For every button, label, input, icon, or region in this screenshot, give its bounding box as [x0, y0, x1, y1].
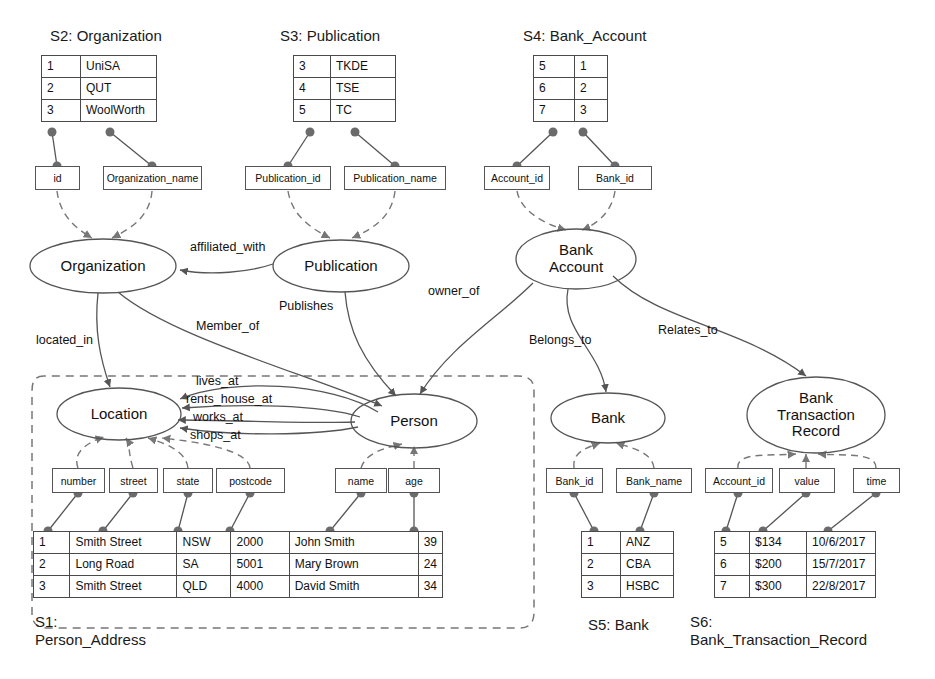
attribute-box-account-id[interactable]: Account_id	[705, 468, 773, 493]
cell: CBA	[621, 554, 674, 576]
dlink-orgname-organization	[112, 191, 152, 238]
relationship-label-works-at: works_at	[193, 410, 243, 424]
attribute-box-account-id-top[interactable]: Account_id	[484, 166, 550, 190]
table-s5-bank[interactable]: 1 ANZ 2 CBA 3 HSBC	[581, 531, 674, 598]
schema-caption-s4: S4: Bank_Account	[523, 27, 646, 44]
cell: 1	[42, 56, 81, 78]
schema-caption-s6-line1: S6:	[690, 613, 713, 630]
link-s4-col2-bankid	[583, 132, 615, 166]
table-s1-person-address[interactable]: 1 Smith Street NSW 2000 John Smith 39 2 …	[33, 531, 443, 598]
table-row: 7 3	[534, 100, 608, 122]
table-s3-body: 3 TKDE 4 TSE 5 TC	[294, 56, 396, 122]
cell: UniSA	[81, 56, 157, 78]
link-accountid-s6	[726, 493, 738, 531]
attribute-box-postcode[interactable]: postcode	[216, 468, 285, 493]
entity-bank-shape[interactable]	[551, 393, 665, 443]
attribute-box-time[interactable]: time	[853, 468, 900, 493]
entity-label-organization: Organization	[30, 252, 176, 280]
entity-label-person: Person	[351, 407, 477, 435]
attribute-box-name[interactable]: name	[335, 468, 387, 493]
cell: 5	[715, 532, 750, 554]
relationship-label-located-in: located_in	[36, 333, 93, 347]
dlink-pubname-publication	[352, 191, 395, 238]
cell: 2	[575, 78, 608, 100]
attribute-box-publication-name[interactable]: Publication_name	[344, 166, 446, 190]
entity-label-bank-account: Bank Account	[516, 236, 636, 282]
cell: John Smith	[289, 532, 418, 554]
cell: $200	[750, 554, 807, 576]
cell: $300	[750, 576, 807, 598]
cell: 3	[294, 56, 331, 78]
attribute-box-bank-id-top[interactable]: Bank_id	[578, 166, 652, 190]
link-s3-col1-pubid	[288, 132, 310, 166]
edge-affiliated-with	[180, 264, 273, 273]
cell: TKDE	[331, 56, 396, 78]
table-row: 1 UniSA	[42, 56, 157, 78]
attribute-box-number[interactable]: number	[52, 468, 105, 493]
cell: Mary Brown	[289, 554, 418, 576]
dlink-postcode-location	[162, 438, 250, 468]
attribute-box-organization-name[interactable]: Organization_name	[103, 166, 202, 190]
table-row: 7 $300 22/8/2017	[715, 576, 876, 598]
attribute-box-id[interactable]: id	[35, 166, 80, 190]
cell: 7	[534, 100, 575, 122]
table-s4-bank-account[interactable]: 5 1 6 2 7 3	[533, 55, 608, 122]
table-s4-body: 5 1 6 2 7 3	[534, 56, 608, 122]
cell: 7	[715, 576, 750, 598]
entity-person-shape[interactable]	[351, 394, 477, 448]
table-s3-publication[interactable]: 3 TKDE 4 TSE 5 TC	[293, 55, 396, 122]
attribute-box-bank-name[interactable]: Bank_name	[616, 468, 692, 493]
dlink-bankid-bankaccount	[582, 191, 615, 230]
relationship-label-lives-at: lives_at	[196, 374, 238, 388]
cell: ANZ	[621, 532, 674, 554]
link-number-s1	[48, 493, 78, 531]
relationship-label-belongs-to: Belongs_to	[529, 333, 592, 347]
table-s6-body: 5 $134 10/6/2017 6 $200 15/7/2017 7 $300…	[715, 532, 876, 598]
entity-organization-shape[interactable]	[30, 239, 176, 293]
attribute-box-age[interactable]: age	[388, 468, 440, 493]
table-row: 2 Long Road SA 5001 Mary Brown 24	[34, 554, 443, 576]
attribute-box-state[interactable]: state	[163, 468, 213, 493]
attribute-box-street[interactable]: street	[109, 468, 158, 493]
table-s6-bank-transaction-record[interactable]: 5 $134 10/6/2017 6 $200 15/7/2017 7 $300…	[714, 531, 876, 598]
table-s2-organization[interactable]: 1 UniSA 2 QUT 3 WoolWorth	[41, 55, 157, 122]
schema-caption-s5: S5: Bank	[588, 616, 649, 633]
cell: 2	[34, 554, 70, 576]
dlink-state-location	[148, 438, 188, 468]
cell: 3	[34, 576, 70, 598]
attribute-box-bank-id[interactable]: Bank_id	[546, 468, 603, 493]
edge-publishes	[345, 292, 396, 396]
link-value-s6	[763, 493, 806, 531]
entity-location-shape[interactable]	[57, 388, 181, 440]
cell: 5	[534, 56, 575, 78]
cell: SA	[177, 554, 231, 576]
cell: 1	[582, 532, 621, 554]
entity-bank-transaction-record-shape[interactable]	[747, 377, 885, 453]
table-row: 6 2	[534, 78, 608, 100]
link-state-s1	[178, 493, 188, 531]
cell: 1	[34, 532, 70, 554]
dlink-bankname-bank	[616, 443, 654, 468]
entity-label-bank: Bank	[551, 404, 665, 432]
attribute-box-value[interactable]: value	[779, 468, 835, 493]
entity-publication-shape[interactable]	[273, 240, 409, 292]
cell: 5	[294, 100, 331, 122]
entity-label-publication: Publication	[273, 252, 409, 280]
table-s5-body: 1 ANZ 2 CBA 3 HSBC	[582, 532, 674, 598]
cell: 10/6/2017	[807, 532, 876, 554]
edge-member-of	[118, 292, 382, 406]
cell: TSE	[331, 78, 396, 100]
cell: QUT	[81, 78, 157, 100]
schema-caption-s6-line2: Bank_Transaction_Record	[690, 631, 867, 648]
cell: 4	[294, 78, 331, 100]
relationship-label-publishes: Publishes	[279, 299, 333, 313]
link-postcode-s1	[230, 493, 250, 531]
link-street-s1	[103, 493, 133, 531]
cell: HSBC	[621, 576, 674, 598]
dlink-number-location	[77, 437, 104, 468]
cell: 1	[575, 56, 608, 78]
cell: 3	[42, 100, 81, 122]
attribute-box-publication-id[interactable]: Publication_id	[245, 166, 331, 190]
relationship-label-member-of: Member_of	[196, 319, 259, 333]
dlink-accid-bankaccount	[517, 191, 566, 230]
